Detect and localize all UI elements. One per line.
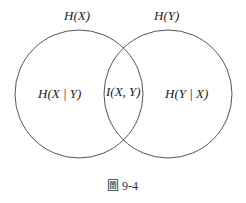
- figure-caption: 圖 9-4: [107, 176, 138, 194]
- label-hx: H(X): [64, 8, 90, 24]
- venn-diagram: [0, 0, 246, 203]
- label-hx-given-y: H(X | Y): [38, 86, 81, 102]
- label-ixy: I(X, Y): [106, 84, 141, 100]
- label-hy-given-x: H(Y | X): [165, 86, 208, 102]
- label-hy: H(Y): [154, 8, 179, 24]
